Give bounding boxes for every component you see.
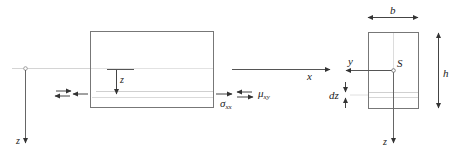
y-axis-label: y xyxy=(347,55,353,67)
sigma-subscript: xx xyxy=(224,103,232,111)
cross-section-view: b h y z S dz xyxy=(329,4,449,147)
x-axis-label: x xyxy=(306,70,312,82)
dz-label: dz xyxy=(329,89,340,101)
beam-stress-diagram: x z z σxx μxy b xyxy=(0,0,463,152)
beam-side-view: x z z σxx μxy xyxy=(12,32,330,147)
centroid-label: S xyxy=(397,57,403,69)
local-z-label: z xyxy=(119,74,124,85)
z-axis-left-label: z xyxy=(15,135,20,146)
mu-subscript: xy xyxy=(263,93,271,101)
width-label: b xyxy=(390,4,396,16)
height-label: h xyxy=(443,67,449,79)
sigma-xx-label: σxx xyxy=(220,97,233,111)
centroid-point xyxy=(392,69,396,73)
origin-point xyxy=(24,67,28,71)
mu-xy-label: μxy xyxy=(257,87,271,101)
z-axis-section-label: z xyxy=(382,136,387,147)
